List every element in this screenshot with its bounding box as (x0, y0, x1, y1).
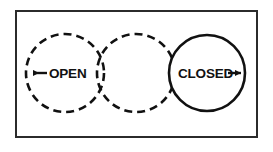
label-open: OPEN (49, 66, 86, 81)
circle-middle-dashed (97, 34, 175, 112)
diagram-canvas: OPEN CLOSED (0, 0, 273, 152)
label-closed: CLOSED (178, 66, 234, 81)
figure-root: OPEN CLOSED (0, 0, 273, 152)
